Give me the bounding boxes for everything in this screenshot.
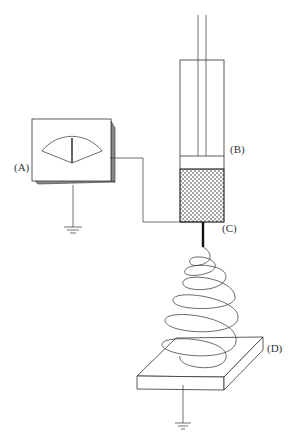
meter-box	[32, 119, 115, 184]
label-a: (A)	[14, 161, 30, 174]
ground-symbol-meter	[64, 185, 82, 233]
electrospinning-diagram: (A) (B) (C) (D)	[0, 0, 297, 440]
ground-symbol-plate	[175, 385, 191, 429]
solution-reservoir	[180, 169, 224, 222]
collector-plate	[137, 337, 263, 390]
syringe	[180, 15, 224, 222]
label-c: (C)	[222, 222, 237, 235]
label-b: (B)	[230, 143, 245, 156]
label-d: (D)	[267, 342, 283, 355]
